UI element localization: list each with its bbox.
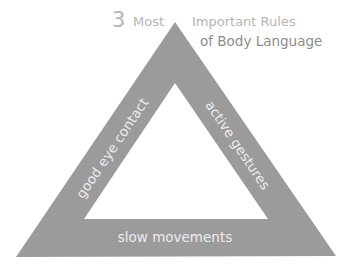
diagram: 3 Most Important Rules of Body Language … xyxy=(0,0,350,270)
title-most: Most xyxy=(133,14,164,29)
title-line1: Important Rules xyxy=(192,14,296,29)
title-number: 3 xyxy=(112,8,125,32)
title-line2: of Body Language xyxy=(200,33,322,49)
side-label-bottom: slow movements xyxy=(115,229,235,245)
